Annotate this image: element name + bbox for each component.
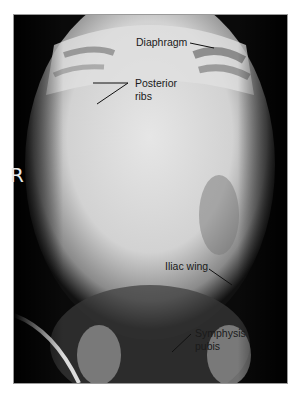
- label-posterior-ribs-2: ribs: [135, 90, 152, 102]
- label-symphysis-2: pubis: [195, 340, 220, 352]
- annotation-leader-lines: [0, 0, 299, 396]
- label-diaphragm: Diaphragm: [136, 36, 187, 48]
- label-posterior-ribs-1: Posterior: [135, 77, 177, 89]
- label-iliac-wing: Iliac wing: [165, 260, 208, 272]
- label-symphysis-1: Symphysis: [195, 327, 246, 339]
